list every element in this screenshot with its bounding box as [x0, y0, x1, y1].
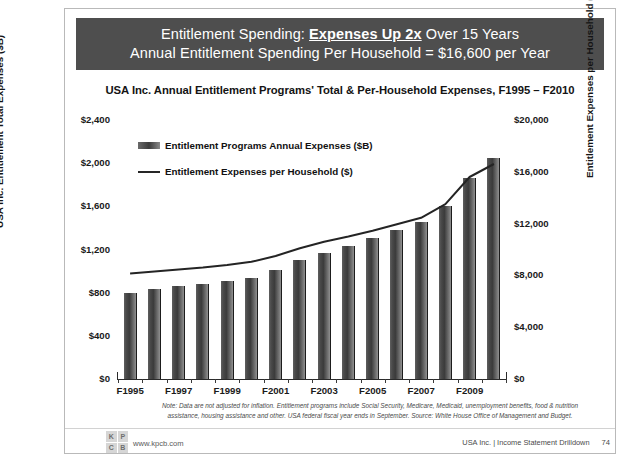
- y-tick-right-0: $0: [514, 373, 570, 384]
- footnote-line-1: Note: Data are not adjusted for inflatio…: [162, 402, 464, 409]
- x-tick-mark-7: [288, 379, 289, 383]
- footer-page-number: 74: [602, 438, 610, 447]
- banner-line-1-pre: Entitlement Spending:: [161, 26, 309, 42]
- x-tick-f2001: F2001: [253, 385, 299, 396]
- kpcb-logo-icon: K P C B: [106, 431, 128, 453]
- y-tick-left-6: $2,400: [56, 114, 110, 125]
- x-tick-mark-1: [142, 379, 143, 383]
- x-tick-mark-15: [482, 379, 483, 383]
- x-tick-f2005: F2005: [350, 385, 396, 396]
- x-tick-mark-16: [506, 379, 507, 383]
- x-tick-mark-12: [409, 379, 410, 383]
- y-axis-title-left: USA Inc. Entitlement Total Expenses ($B): [0, 35, 5, 228]
- x-tick-f2009: F2009: [447, 385, 493, 396]
- banner-line-1-emphasis: Expenses Up 2x: [309, 26, 422, 42]
- chart-legend: Entitlement Programs Annual Expenses ($B…: [138, 140, 373, 192]
- footnote-line-3: September. Source: White House Office of…: [377, 412, 573, 419]
- x-tick-f1995: F1995: [107, 385, 153, 396]
- title-banner: Entitlement Spending: Expenses Up 2x Ove…: [76, 18, 604, 70]
- x-tick-mark-11: [385, 379, 386, 383]
- x-tick-mark-3: [191, 379, 192, 383]
- y-tick-left-0: $0: [56, 373, 110, 384]
- chart-title: USA Inc. Annual Entitlement Programs' To…: [76, 84, 604, 96]
- y-tick-left-5: $2,000: [56, 157, 110, 168]
- y-tick-right-5: $20,000: [514, 114, 570, 125]
- banner-line-2: Annual Entitlement Spending Per Househol…: [130, 44, 550, 63]
- x-tick-mark-9: [336, 379, 337, 383]
- x-tick-mark-5: [239, 379, 240, 383]
- y-tick-right-1: $4,000: [514, 321, 570, 332]
- x-tick-mark-14: [458, 379, 459, 383]
- footer-divider: [65, 428, 615, 429]
- y-tick-left-4: $1,600: [56, 200, 110, 211]
- legend-item-line: Entitlement Expenses per Household ($): [138, 166, 373, 177]
- footer-deck-title: USA Inc. | Income Statement Drilldown: [462, 438, 589, 447]
- line-swatch-icon: [138, 171, 160, 173]
- x-tick-f2003: F2003: [301, 385, 347, 396]
- y-axis-title-right: Entitlement Expenses per Household ($): [584, 0, 595, 178]
- banner-line-1-post: Over 15 Years: [422, 26, 519, 42]
- x-tick-mark-0: [118, 379, 119, 383]
- x-tick-f2007: F2007: [398, 385, 444, 396]
- y-tick-right-2: $8,000: [514, 269, 570, 280]
- y-tick-right-3: $12,000: [514, 218, 570, 229]
- x-tick-mark-8: [312, 379, 313, 383]
- legend-label-line: Entitlement Expenses per Household ($): [165, 166, 353, 177]
- kpcb-logo-letter-p: P: [118, 431, 129, 442]
- kpcb-logo-letter-b: B: [118, 443, 129, 454]
- x-tick-mark-4: [215, 379, 216, 383]
- x-tick-mark-10: [361, 379, 362, 383]
- slide-canvas: Entitlement Spending: Expenses Up 2x Ove…: [0, 0, 632, 466]
- x-tick-mark-2: [167, 379, 168, 383]
- x-tick-f1999: F1999: [204, 385, 250, 396]
- kpcb-website-link[interactable]: www.kpcb.com: [133, 439, 184, 448]
- kpcb-logo-letter-k: K: [106, 431, 117, 442]
- y-tick-left-1: $400: [56, 330, 110, 341]
- chart-footnote: Note: Data are not adjusted for inflatio…: [150, 401, 590, 421]
- legend-label-bars: Entitlement Programs Annual Expenses ($B…: [165, 140, 373, 151]
- bar-swatch-icon: [138, 142, 160, 149]
- banner-line-1: Entitlement Spending: Expenses Up 2x Ove…: [161, 25, 519, 44]
- y-tick-right-4: $16,000: [514, 166, 570, 177]
- legend-item-bars: Entitlement Programs Annual Expenses ($B…: [138, 140, 373, 151]
- footer-meta: USA Inc. | Income Statement Drilldown 74: [462, 438, 610, 447]
- y-tick-left-3: $1,200: [56, 244, 110, 255]
- kpcb-logo-letter-c: C: [106, 443, 117, 454]
- x-tick-mark-6: [264, 379, 265, 383]
- x-tick-mark-13: [433, 379, 434, 383]
- x-tick-f1997: F1997: [156, 385, 202, 396]
- y-tick-left-2: $800: [56, 287, 110, 298]
